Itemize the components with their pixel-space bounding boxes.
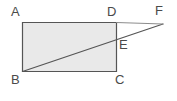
rectangle-abcd xyxy=(23,23,117,72)
vertex-label-b: B xyxy=(11,73,20,86)
segment-d-to-f xyxy=(117,23,164,25)
vertex-label-c: C xyxy=(115,73,124,86)
vertex-label-f: F xyxy=(155,4,163,17)
geometry-canvas xyxy=(0,0,177,101)
vertex-label-d: D xyxy=(107,5,116,18)
geometry-figure: A B C D E F xyxy=(0,0,177,101)
vertex-label-a: A xyxy=(11,5,20,18)
vertex-label-e: E xyxy=(119,38,128,51)
